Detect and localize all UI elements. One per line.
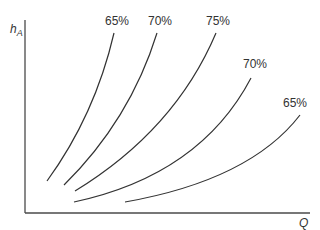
y-axis-label: hA: [10, 22, 23, 38]
efficiency-curve: [74, 78, 251, 202]
efficiency-curve-label: 75%: [206, 14, 230, 28]
efficiency-diagram: hA Q 65%70%75%70%65%: [0, 0, 320, 230]
efficiency-curve: [75, 33, 216, 191]
efficiency-curve-label: 70%: [148, 14, 172, 28]
efficiency-curve-label: 65%: [283, 96, 307, 110]
efficiency-curve: [47, 33, 114, 181]
efficiency-curve-label: 65%: [105, 14, 129, 28]
efficiency-curve: [64, 33, 157, 185]
efficiency-curve: [125, 115, 300, 202]
x-axis-label: Q: [299, 216, 308, 230]
efficiency-curve-label: 70%: [243, 57, 267, 71]
efficiency-curves: 65%70%75%70%65%: [47, 14, 307, 202]
